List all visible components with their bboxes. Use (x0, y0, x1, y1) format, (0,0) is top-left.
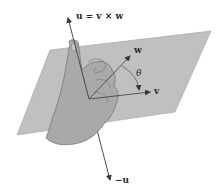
u-axis-label: u = v × w (76, 12, 123, 21)
v-vector-label: v (154, 87, 159, 96)
w-vector-label: w (134, 46, 142, 55)
neg-u-axis-label: −u (115, 176, 129, 185)
angle-theta-label: θ (136, 69, 141, 78)
cross-product-diagram (0, 0, 221, 194)
